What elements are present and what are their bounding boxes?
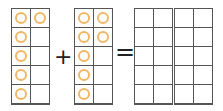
counter-circle-icon xyxy=(15,31,27,43)
counter-circle-icon xyxy=(78,12,90,24)
frame-cell xyxy=(75,28,93,46)
counter-circle-icon xyxy=(15,88,27,100)
frame-cell[interactable] xyxy=(175,9,193,27)
frame-cell xyxy=(31,28,49,46)
frame-cell[interactable] xyxy=(135,28,153,46)
ten-frame-sum-2[interactable] xyxy=(174,8,213,105)
plus-sign: + xyxy=(54,47,72,67)
counter-circle-icon xyxy=(15,50,27,62)
frame-cell xyxy=(12,9,30,27)
frame-cell[interactable] xyxy=(194,85,212,103)
frame-cell xyxy=(31,47,49,65)
frame-cell xyxy=(94,9,112,27)
frame-cell[interactable] xyxy=(154,28,172,46)
frame-cell xyxy=(12,47,30,65)
frame-cell[interactable] xyxy=(154,85,172,103)
frame-cell xyxy=(94,47,112,65)
frame-cell xyxy=(75,66,93,84)
frame-cell xyxy=(75,9,93,27)
counter-circle-icon xyxy=(34,12,46,24)
ten-frame-addend-2 xyxy=(74,8,113,105)
counter-circle-icon xyxy=(97,12,109,24)
frame-cell xyxy=(12,28,30,46)
frame-cell xyxy=(75,85,93,103)
frame-cell xyxy=(12,85,30,103)
frame-cell xyxy=(94,28,112,46)
counter-circle-icon xyxy=(78,88,90,100)
counter-circle-icon xyxy=(78,31,90,43)
equals-sign: = xyxy=(115,42,135,62)
counter-circle-icon xyxy=(15,69,27,81)
frame-cell xyxy=(31,85,49,103)
frame-cell[interactable] xyxy=(194,28,212,46)
counter-circle-icon xyxy=(97,31,109,43)
frame-cell[interactable] xyxy=(175,85,193,103)
frame-cell[interactable] xyxy=(194,66,212,84)
frame-cell[interactable] xyxy=(154,66,172,84)
frame-cell xyxy=(31,9,49,27)
frame-cell[interactable] xyxy=(194,47,212,65)
frame-cell xyxy=(31,66,49,84)
ten-frame-sum-1[interactable] xyxy=(134,8,173,105)
counter-circle-icon xyxy=(15,12,27,24)
frame-cell[interactable] xyxy=(175,66,193,84)
ten-frame-addend-1 xyxy=(11,8,50,105)
counter-circle-icon xyxy=(78,50,90,62)
frame-cell xyxy=(12,66,30,84)
frame-cell[interactable] xyxy=(154,47,172,65)
frame-cell[interactable] xyxy=(154,9,172,27)
frame-cell[interactable] xyxy=(135,66,153,84)
frame-cell[interactable] xyxy=(175,28,193,46)
frame-cell xyxy=(75,47,93,65)
frame-cell[interactable] xyxy=(135,47,153,65)
frame-cell[interactable] xyxy=(175,47,193,65)
frame-cell[interactable] xyxy=(194,9,212,27)
frame-cell[interactable] xyxy=(135,9,153,27)
frame-cell xyxy=(94,66,112,84)
counter-circle-icon xyxy=(78,69,90,81)
frame-cell xyxy=(94,85,112,103)
frame-cell[interactable] xyxy=(135,85,153,103)
